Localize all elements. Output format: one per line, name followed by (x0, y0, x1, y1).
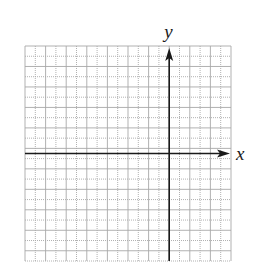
y-axis-label: y (162, 21, 173, 42)
x-axis-label: x (235, 143, 245, 164)
coordinate-grid: x y (0, 0, 258, 270)
